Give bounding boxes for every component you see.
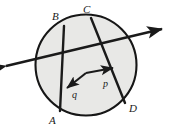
label-point-d: D — [129, 103, 137, 114]
label-point-a: A — [49, 115, 56, 126]
geometry-canvas — [0, 0, 172, 132]
label-vector-p: p — [103, 79, 108, 89]
label-point-b: B — [52, 11, 59, 22]
label-point-c: C — [83, 4, 90, 15]
main-circle — [36, 15, 137, 116]
geometry-figure: B C A D p q — [0, 0, 172, 132]
label-vector-q: q — [72, 90, 77, 100]
